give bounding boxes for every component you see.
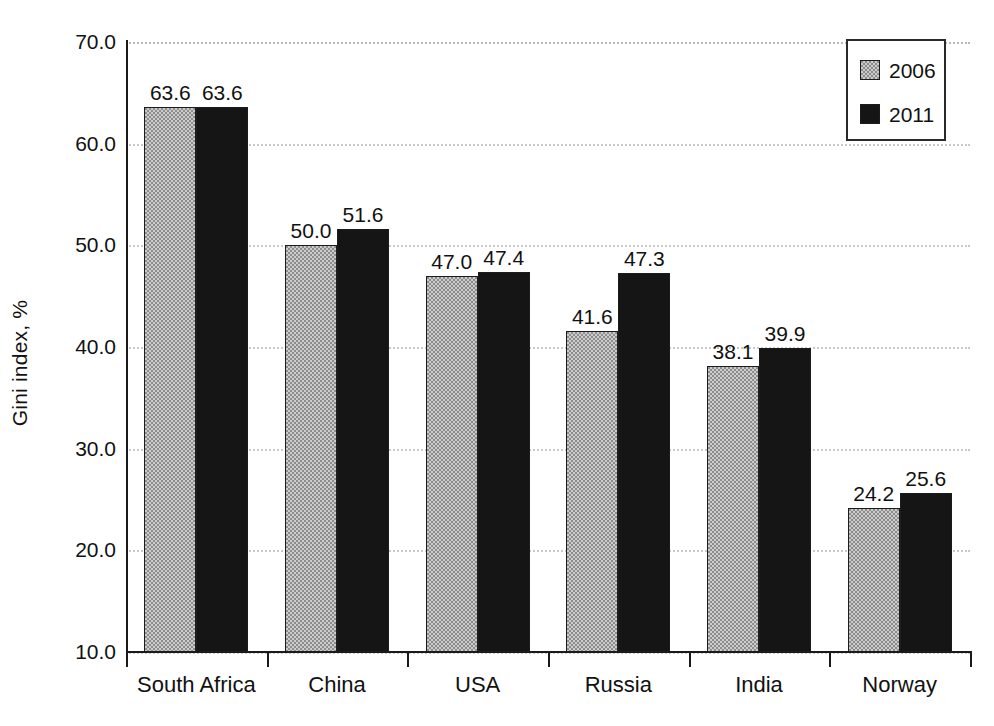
bar-group: 50.051.6 bbox=[285, 42, 389, 652]
bar-group: 41.647.3 bbox=[566, 42, 670, 652]
x-axis-label-norway: Norway bbox=[862, 672, 937, 698]
bar-value-label: 50.0 bbox=[291, 219, 332, 243]
bar-value-label: 47.3 bbox=[624, 247, 665, 271]
legend-label-2006: 2006 bbox=[889, 60, 936, 81]
bar-russia-2011[interactable]: 47.3 bbox=[618, 273, 670, 652]
bar-india-2006[interactable]: 38.1 bbox=[707, 366, 759, 652]
legend-swatch-2011-icon bbox=[860, 104, 880, 124]
legend-swatch-2006-icon bbox=[860, 60, 880, 80]
y-axis-tick-label: 40.0 bbox=[36, 335, 116, 359]
x-axis-category-labels: South AfricaChinaUSARussiaIndiaNorway bbox=[126, 672, 972, 712]
x-axis-tick bbox=[689, 652, 691, 667]
x-axis-ticks bbox=[126, 652, 972, 668]
bar-value-label: 39.9 bbox=[765, 322, 806, 346]
gini-index-bar-chart: Gini index, % 10.020.030.040.050.060.070… bbox=[0, 0, 994, 726]
y-axis-tick-labels: 10.020.030.040.050.060.070.0 bbox=[28, 42, 116, 652]
bar-norway-2006[interactable]: 24.2 bbox=[848, 508, 900, 652]
bar-value-label: 24.2 bbox=[853, 482, 894, 506]
x-axis-tick bbox=[126, 652, 128, 667]
x-axis-tick bbox=[829, 652, 831, 667]
bar-value-label: 63.6 bbox=[202, 81, 243, 105]
bar-china-2006[interactable]: 50.0 bbox=[285, 245, 337, 652]
y-axis-tick-label: 20.0 bbox=[36, 538, 116, 562]
y-axis-tick-label: 50.0 bbox=[36, 233, 116, 257]
x-axis-label-south-africa: South Africa bbox=[137, 672, 256, 698]
y-axis-tick-label: 60.0 bbox=[36, 132, 116, 156]
bar-norway-2011[interactable]: 25.6 bbox=[900, 493, 952, 652]
x-axis-label-usa: USA bbox=[455, 672, 500, 698]
bar-usa-2011[interactable]: 47.4 bbox=[478, 272, 530, 652]
x-axis-label-russia: Russia bbox=[585, 672, 652, 698]
x-axis-tick bbox=[407, 652, 409, 667]
bar-group: 47.047.4 bbox=[426, 42, 530, 652]
x-axis-label-china: China bbox=[308, 672, 365, 698]
bar-china-2011[interactable]: 51.6 bbox=[337, 229, 389, 652]
y-axis-tick-label: 30.0 bbox=[36, 437, 116, 461]
legend-item-2006: 2006 bbox=[860, 53, 944, 87]
bar-group: 38.139.9 bbox=[707, 42, 811, 652]
legend-item-2011: 2011 bbox=[860, 97, 944, 131]
bar-russia-2006[interactable]: 41.6 bbox=[566, 331, 618, 652]
bar-usa-2006[interactable]: 47.0 bbox=[426, 276, 478, 652]
bar-value-label: 63.6 bbox=[150, 81, 191, 105]
bar-value-label: 41.6 bbox=[572, 305, 613, 329]
legend: 2006 2011 bbox=[846, 39, 946, 141]
legend-label-2011: 2011 bbox=[889, 104, 934, 125]
x-axis-tick bbox=[548, 652, 550, 667]
x-axis-tick bbox=[970, 652, 972, 667]
x-axis-label-india: India bbox=[735, 672, 783, 698]
bar-value-label: 47.4 bbox=[483, 246, 524, 270]
bar-value-label: 47.0 bbox=[431, 250, 472, 274]
bar-south-africa-2011[interactable]: 63.6 bbox=[196, 107, 248, 652]
y-axis-tick-label: 70.0 bbox=[36, 30, 116, 54]
bar-value-label: 25.6 bbox=[905, 467, 946, 491]
bar-value-label: 38.1 bbox=[713, 340, 754, 364]
bar-india-2011[interactable]: 39.9 bbox=[759, 348, 811, 652]
bars-layer: 63.663.650.051.647.047.441.647.338.139.9… bbox=[126, 42, 970, 652]
bar-south-africa-2006[interactable]: 63.6 bbox=[144, 107, 196, 652]
bar-value-label: 51.6 bbox=[343, 203, 384, 227]
x-axis-tick bbox=[267, 652, 269, 667]
y-axis-tick-label: 10.0 bbox=[36, 640, 116, 664]
bar-group: 63.663.6 bbox=[144, 42, 248, 652]
